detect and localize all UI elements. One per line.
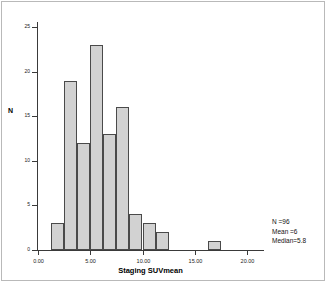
histogram-figure: 0 5 10 15 20 25 0.00 5.00: [0, 0, 328, 284]
y-axis-tick: 15: [32, 116, 37, 117]
y-axis-line: [37, 22, 38, 251]
x-axis-tick: 15.00: [195, 251, 196, 255]
histogram-bar: [116, 107, 129, 250]
y-axis-tick-label: 25: [24, 23, 30, 30]
y-axis-tick: 10: [32, 161, 37, 162]
histogram-bar: [90, 45, 103, 250]
x-axis-line: [37, 250, 264, 251]
histogram-bar: [129, 214, 142, 250]
y-axis-tick-label: 10: [24, 157, 30, 164]
stat-n: N =96: [272, 217, 306, 227]
y-axis-title: N: [8, 106, 13, 115]
y-axis-tick: 0: [32, 250, 37, 251]
x-axis-tick-label: 20.00: [241, 257, 255, 265]
histogram-bar: [208, 241, 221, 250]
x-axis-title: Staging SUVmean: [37, 266, 264, 276]
y-axis-tick-label: 20: [24, 68, 30, 75]
histogram-bar: [51, 223, 64, 250]
stat-median: Median=5.8: [272, 236, 306, 246]
histogram-bar: [156, 232, 169, 250]
histogram-bar: [143, 223, 156, 250]
y-axis-tick-label: 0: [27, 246, 30, 253]
x-axis-tick-label: 0.00: [33, 257, 44, 265]
y-axis-tick: 20: [32, 72, 37, 73]
x-axis-tick: 0.00: [38, 251, 39, 255]
y-axis-tick: 5: [32, 205, 37, 206]
x-axis-tick-label: 10.00: [137, 257, 151, 265]
x-axis-tick: 10.00: [143, 251, 144, 255]
x-axis-tick-label: 5.00: [85, 257, 96, 265]
x-axis-tick-label: 15.00: [189, 257, 203, 265]
x-axis-tick: 5.00: [90, 251, 91, 255]
x-axis-tick: 20.00: [247, 251, 248, 255]
stat-mean: Mean =6: [272, 227, 306, 237]
histogram-bar: [64, 81, 77, 251]
y-axis-tick: 25: [32, 27, 37, 28]
y-axis-tick-label: 15: [24, 112, 30, 119]
histogram-bar: [103, 134, 116, 250]
statistics-annotation: N =96 Mean =6 Median=5.8: [272, 217, 306, 246]
y-axis-tick-label: 5: [27, 201, 30, 208]
plot-area: 0 5 10 15 20 25 0.00 5.00: [0, 0, 328, 284]
histogram-bar: [77, 143, 90, 250]
